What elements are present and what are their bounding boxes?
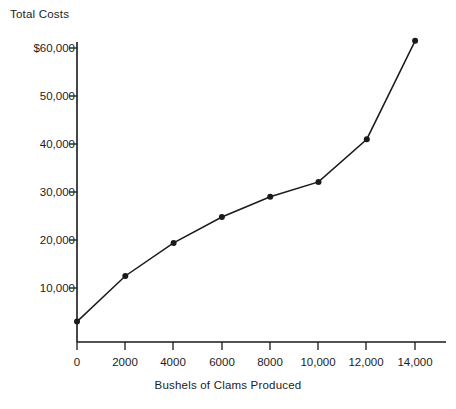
x-tick-label-6000: 6000 xyxy=(209,356,235,368)
x-axis-title: Bushels of Clams Produced xyxy=(0,379,456,391)
data-point-8000 xyxy=(267,194,273,200)
x-tick-label-4000: 4000 xyxy=(160,356,186,368)
line-chart-plot xyxy=(0,0,456,409)
y-axis-ticks xyxy=(69,48,77,288)
x-axis-ticks xyxy=(77,342,415,350)
data-point-14000 xyxy=(412,38,418,44)
chart-figure: Total Costs $60,000 50,0 xyxy=(0,0,456,409)
data-point-10000 xyxy=(316,179,322,185)
data-point-0 xyxy=(74,319,80,325)
y-tick-label-40000: 40,000 xyxy=(40,138,75,150)
data-point-6000 xyxy=(219,214,225,220)
x-tick-label-2000: 2000 xyxy=(112,356,138,368)
x-tick-label-12000: 12,000 xyxy=(348,356,383,368)
x-tick-label-14000: 14,000 xyxy=(397,356,432,368)
data-point-markers xyxy=(74,38,418,325)
y-tick-label-10000: 10,000 xyxy=(40,282,75,294)
y-tick-label-20000: 20,000 xyxy=(40,234,75,246)
data-point-2000 xyxy=(122,273,128,279)
y-tick-label-30000: 30,000 xyxy=(40,186,75,198)
data-point-4000 xyxy=(171,240,177,246)
y-tick-label-50000: 50,000 xyxy=(40,90,75,102)
x-tick-label-8000: 8000 xyxy=(257,356,283,368)
data-point-12000 xyxy=(364,136,370,142)
x-tick-label-0: 0 xyxy=(74,356,80,368)
data-line xyxy=(77,41,415,322)
y-tick-label-60000: $60,000 xyxy=(33,42,75,54)
x-tick-label-10000: 10,000 xyxy=(300,356,335,368)
